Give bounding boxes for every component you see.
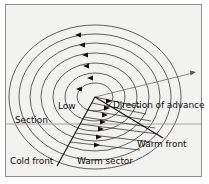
label-cold-front: Cold front [10, 156, 53, 166]
cold-air-flow-arrows [75, 33, 93, 92]
warm-arrow-7 [94, 143, 100, 148]
flow-arrow-5 [79, 43, 85, 48]
label-section: Section [15, 115, 48, 125]
label-warm-front: Warm front [137, 139, 186, 149]
flow-arrow-4 [82, 53, 88, 58]
flow-arrow-6 [75, 33, 81, 38]
label-direction-of-advance: Direction of advance [113, 100, 204, 110]
label-low: Low [58, 101, 75, 111]
flow-arrow-2 [87, 76, 93, 81]
warm-sector-line-5 [80, 124, 158, 134]
warm-arrow-6 [96, 135, 102, 140]
label-warm-sector: Warm sector [77, 156, 133, 166]
weather-depression-diagram: Low Section Direction of advance Warm fr… [0, 0, 209, 184]
